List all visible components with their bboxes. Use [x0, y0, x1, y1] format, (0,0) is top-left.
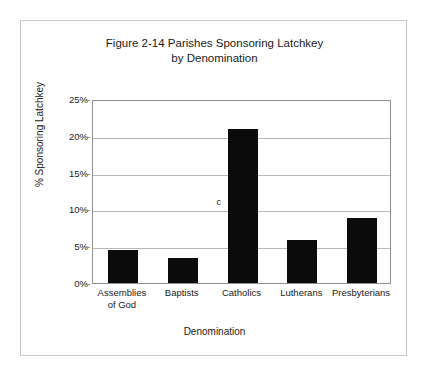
bar-presbyterians[interactable]: [347, 218, 377, 284]
chart-title: Figure 2-14 Parishes Sponsoring Latchkey…: [21, 36, 408, 66]
bar-catholics[interactable]: [228, 129, 258, 283]
bar-baptists[interactable]: [168, 258, 198, 283]
x-tick-label-line-1: Baptists: [165, 287, 199, 298]
bar-assemblies-of-god[interactable]: [108, 250, 138, 283]
x-tick-label-baptists: Baptists: [152, 287, 212, 299]
y-tick-label-10%: 10%: [54, 205, 88, 215]
y-tick-mark-10%: [86, 210, 90, 211]
y-axis-tick-labels: 0%5%10%15%20%25%: [48, 100, 88, 284]
x-tick-label-line-1: Catholics: [222, 287, 261, 298]
bar-lutherans[interactable]: [287, 240, 317, 283]
x-tick-label-assemblies-of-god: Assembliesof God: [92, 287, 152, 311]
y-tick-mark-20%: [86, 137, 90, 138]
chart-title-line-1: Figure 2-14 Parishes Sponsoring Latchkey: [21, 36, 408, 51]
chart-annotation-c: c: [217, 198, 222, 207]
y-tick-label-20%: 20%: [54, 132, 88, 142]
x-tick-label-line-1: Assemblies: [98, 287, 147, 298]
x-tick-label-line-1: Presbyterians: [332, 287, 390, 298]
y-tick-label-15%: 15%: [54, 169, 88, 179]
y-axis-title: % Sponsoring Latchkey: [34, 70, 45, 200]
y-tick-mark-0%: [86, 284, 90, 285]
plot-area: c: [92, 100, 391, 284]
x-tick-label-presbyterians: Presbyterians: [331, 287, 391, 299]
figure-frame: Figure 2-14 Parishes Sponsoring Latchkey…: [20, 20, 407, 356]
x-tick-label-catholics: Catholics: [212, 287, 272, 299]
x-tick-label-line-1: Lutherans: [280, 287, 322, 298]
x-axis-title: Denomination: [21, 326, 408, 337]
chart-title-line-2: by Denomination: [21, 51, 408, 66]
x-axis-tick-labels: Assembliesof GodBaptistsCatholicsLuthera…: [92, 287, 391, 321]
y-tick-label-25%: 25%: [54, 95, 88, 105]
x-tick-label-line-2: of God: [92, 299, 152, 311]
y-tick-mark-15%: [86, 174, 90, 175]
x-tick-label-lutherans: Lutherans: [271, 287, 331, 299]
y-tick-label-0%: 0%: [54, 279, 88, 289]
y-tick-mark-25%: [86, 100, 90, 101]
y-tick-mark-5%: [86, 247, 90, 248]
y-tick-label-5%: 5%: [54, 242, 88, 252]
